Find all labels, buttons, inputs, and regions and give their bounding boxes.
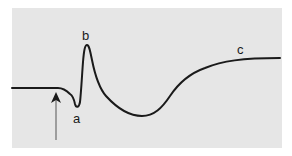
label-b: b bbox=[82, 28, 89, 43]
label-c: c bbox=[237, 42, 244, 57]
stimulus-arrow bbox=[51, 92, 61, 140]
label-a: a bbox=[73, 111, 81, 126]
waveform-figure: a b c bbox=[0, 0, 292, 156]
